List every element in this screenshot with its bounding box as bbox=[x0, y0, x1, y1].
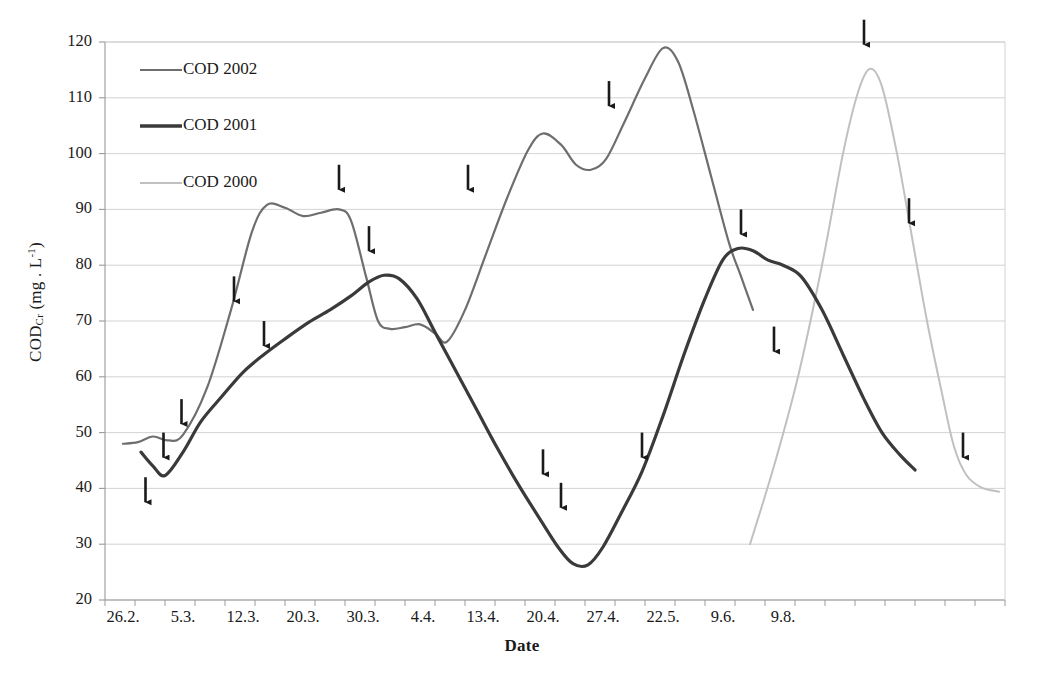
y-axis-title-wrapper: CODCr (mg . L-1) bbox=[25, 92, 59, 512]
x-tick-label-98: 9.8. bbox=[748, 607, 818, 627]
y-axis-title-base: COD bbox=[26, 325, 45, 362]
series-line-cod-2002 bbox=[123, 47, 753, 443]
y-tick-label-30: 30 bbox=[48, 533, 92, 553]
y-axis-title: CODCr (mg . L-1) bbox=[26, 242, 45, 362]
chart-plot-svg bbox=[0, 0, 1044, 681]
arrow-annotations-group bbox=[146, 20, 964, 508]
y-tick-marks bbox=[99, 42, 105, 600]
series-line-cod-2001 bbox=[141, 248, 915, 567]
legend-label-cod-2002: COD 2002 bbox=[183, 59, 257, 79]
x-tick-marks bbox=[105, 600, 1005, 606]
y-axis-title-sup: -1 bbox=[25, 248, 37, 258]
y-axis-title-unit-close: ) bbox=[26, 242, 45, 248]
x-axis-title: Date bbox=[0, 636, 1044, 656]
y-axis-title-unit-open: (mg . L bbox=[26, 258, 45, 314]
legend-label-cod-2001: COD 2001 bbox=[183, 115, 257, 135]
y-tick-label-20: 20 bbox=[48, 589, 92, 609]
chart-container: 1201101009080706050403020 26.2.5.3.12.3.… bbox=[0, 0, 1044, 681]
series-line-cod-2000 bbox=[750, 69, 999, 545]
y-axis-title-sub: Cr bbox=[33, 314, 45, 325]
legend-line-swatches bbox=[140, 70, 182, 183]
y-tick-label-120: 120 bbox=[48, 31, 92, 51]
legend-label-cod-2000: COD 2000 bbox=[183, 172, 257, 192]
